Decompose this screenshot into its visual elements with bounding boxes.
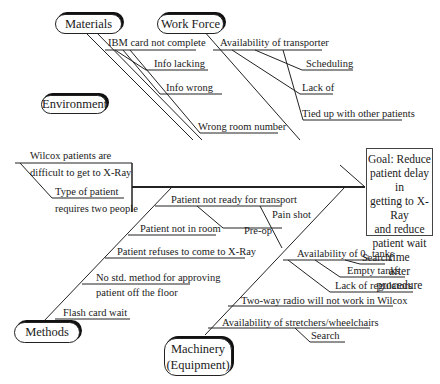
cause-info-wrong: Info wrong (166, 82, 213, 94)
cause-lack-regulators: Lack of regulators (335, 280, 412, 292)
cause-wilcox-1: Wilcox patients are (30, 150, 111, 162)
category-environment: Environment (41, 95, 107, 114)
cause-info-lacking: Info lacking (154, 58, 205, 70)
cause-two-way-radio: Two-way radio will not work in Wilcox (241, 295, 408, 307)
goal-line: getting to X-Ray (367, 194, 432, 222)
cause-o2-search: Search (362, 252, 391, 264)
cause-no-method-2: patient off the floor (96, 287, 178, 299)
cause-stretchers-search: Search (311, 330, 340, 342)
cause-tied-up: Tied up with other patients (302, 108, 415, 120)
goal-line: patient delay in (367, 166, 432, 194)
goal-line: and reduce (367, 222, 432, 236)
machinery-line1: Machinery (165, 341, 231, 357)
cause-lack-of: Lack of (302, 82, 334, 94)
cause-stretchers: Availability of stretchers/wheelchairs (222, 317, 379, 329)
cause-empty-tanks: Empty tanks (347, 265, 400, 277)
cause-not-in-room: Patient not in room (140, 223, 221, 235)
goal-line: Goal: Reduce (367, 152, 432, 166)
cause-wrong-room: Wrong room number (198, 121, 286, 133)
machinery-line2: (Equipment) (165, 357, 231, 373)
cause-pre-op: Pre-op (244, 225, 272, 237)
cause-transporter: Availability of transporter (220, 37, 329, 49)
cause-wilcox-2: difficult to get to X-Ray (30, 167, 131, 179)
cause-type-patient-1: Type of patient (55, 186, 118, 198)
cause-pain-shot: Pain shot (272, 209, 311, 221)
goal-box: Goal: Reduce patient delay in getting to… (366, 148, 433, 236)
cause-flash-card: Flash card wait (63, 307, 127, 319)
cause-refuses: Patient refuses to come to X-Ray (117, 246, 256, 258)
cause-no-method-1: No std. method for approving (96, 272, 221, 284)
cause-not-ready: Patient not ready for transport (171, 194, 297, 206)
cause-scheduling: Scheduling (306, 58, 353, 70)
category-methods: Methods (14, 322, 80, 343)
category-materials: Materials (55, 14, 122, 34)
category-machinery: Machinery (Equipment) (164, 338, 232, 376)
cause-ibm-card: IBM card not complete (108, 37, 206, 49)
category-work-force: Work Force (157, 14, 224, 34)
cause-type-patient-2: requires two people (55, 203, 138, 215)
